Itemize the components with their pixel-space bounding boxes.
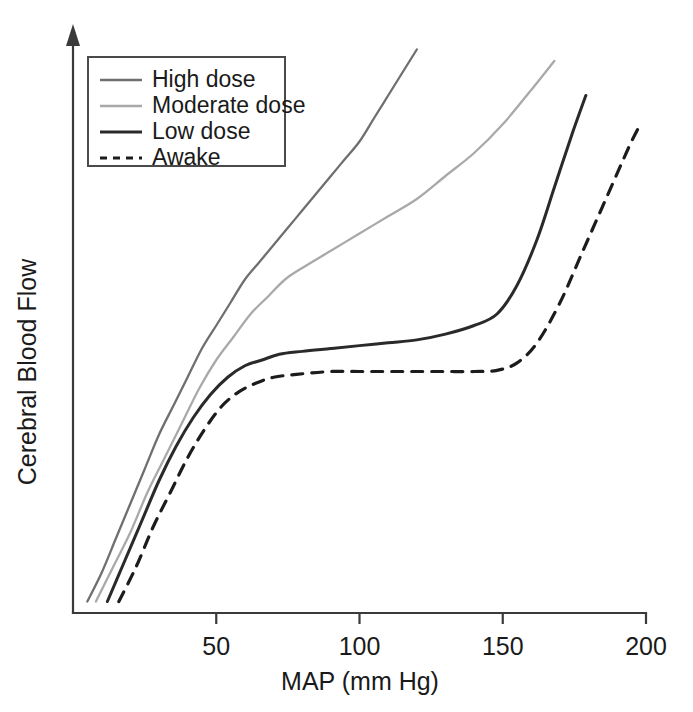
legend: High doseModerate doseLow doseAwake [88,57,305,170]
curve-low-dose [107,96,585,602]
legend-label-awake: Awake [152,144,221,170]
x-axis-tick-label: 50 [202,632,230,660]
y-axis-arrow-icon [66,24,80,46]
curve-awake [119,124,640,601]
legend-label-moderate-dose: Moderate dose [152,92,305,118]
legend-label-high-dose: High dose [152,66,256,92]
x-axis-title: MAP (mm Hg) [281,667,439,695]
x-axis-tick-label: 150 [482,632,524,660]
y-axis-title: Cerebral Blood Flow [13,258,41,485]
x-axis-ticks: 50100150200 [202,613,667,660]
x-axis-tick-label: 100 [339,632,381,660]
x-axis-tick-label: 200 [625,632,667,660]
chart-figure: 50100150200 MAP (mm Hg) Cerebral Blood F… [0,0,693,712]
legend-label-low-dose: Low dose [152,118,250,144]
cerebral-blood-flow-chart: 50100150200 MAP (mm Hg) Cerebral Blood F… [0,0,693,712]
